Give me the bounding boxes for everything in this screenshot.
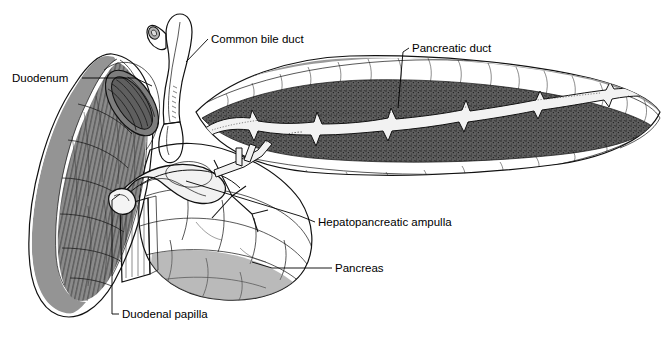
diagram-canvas: Duodenum Common bile duct Pancreatic duc… [0,0,672,338]
label-common-bile-duct: Common bile duct [211,33,304,45]
label-pancreas: Pancreas [335,262,384,274]
duodenal-papilla [109,189,136,215]
label-pancreatic-duct: Pancreatic duct [412,42,492,54]
label-duodenal-papilla: Duodenal papilla [122,308,208,320]
label-duodenum: Duodenum [12,72,68,84]
anatomy-figure: Duodenum Common bile duct Pancreatic duc… [0,0,672,338]
label-hepatopancreatic-ampulla: Hepatopancreatic ampulla [318,216,452,228]
